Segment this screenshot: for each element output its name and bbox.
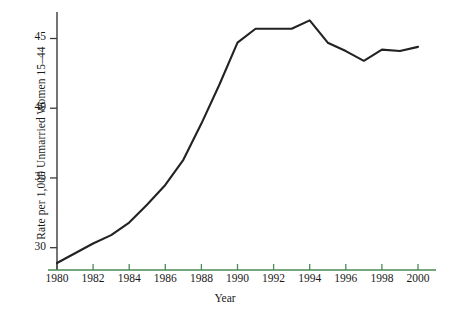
- data-series-line: [57, 20, 418, 263]
- y-axis-tick-label: 45: [20, 30, 46, 42]
- y-axis-tick-label: 30: [20, 240, 46, 252]
- y-axis-tick-label: 40: [20, 100, 46, 112]
- y-axis-ticks: [50, 38, 57, 247]
- x-axis-title: Year: [0, 292, 450, 304]
- x-axis-tick-label: 2000: [397, 272, 439, 284]
- chart-container: Rate per 1,000 Unmarried Women 15–44 303…: [0, 0, 450, 320]
- x-axis-ticks: [57, 264, 418, 270]
- y-axis-tick-label: 35: [20, 170, 46, 182]
